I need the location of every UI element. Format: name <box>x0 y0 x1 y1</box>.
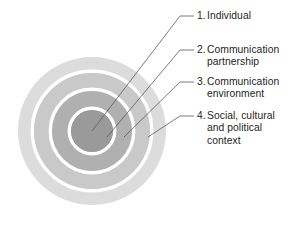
label-text-3-line2: environment <box>197 88 279 100</box>
label-text-4-line2: and political <box>197 122 275 134</box>
label-individual: 1.Individual <box>197 10 251 22</box>
label-communication-environment: 3.Communication environment <box>197 76 279 101</box>
label-text-4-line3: context <box>197 135 275 147</box>
label-text-2-line2: partnership <box>197 56 279 68</box>
label-social-cultural-political-context: 4.Social, cultural and political context <box>197 110 275 147</box>
label-number-3: 3. <box>197 76 207 88</box>
label-communication-partnership: 2.Communication partnership <box>197 44 279 69</box>
label-text-3-line1: Communication <box>207 76 279 88</box>
label-number-2: 2. <box>197 44 207 56</box>
label-text-2-line1: Communication <box>207 44 279 56</box>
label-number-1: 1. <box>197 10 207 22</box>
label-text-4-line1: Social, cultural <box>207 110 275 122</box>
label-number-4: 4. <box>197 110 207 122</box>
label-text-1-line1: Individual <box>207 10 251 22</box>
